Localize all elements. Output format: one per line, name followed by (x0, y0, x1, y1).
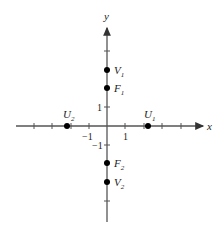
x-axis-label: x (206, 120, 212, 132)
label-u2: U2 (63, 108, 75, 123)
y-axis-label: y (103, 10, 109, 22)
label-v1: V1 (114, 64, 124, 79)
coordinate-plane: x y −1 1 1 −1 V1 F1 F2 V2 U1 U2 (0, 0, 224, 235)
tick-label-y-neg1: −1 (92, 140, 103, 151)
point-u2 (64, 123, 70, 129)
point-f1 (104, 85, 110, 91)
label-f1: F1 (113, 82, 124, 97)
tick-label-x-pos1: 1 (123, 131, 128, 142)
point-f2 (104, 160, 110, 166)
point-u1 (145, 123, 151, 129)
tick-label-y-pos1: 1 (97, 102, 102, 113)
label-f2: F2 (113, 157, 125, 172)
point-v2 (104, 179, 110, 185)
label-v2: V2 (114, 176, 125, 191)
label-u1: U1 (144, 108, 155, 123)
point-v1 (104, 67, 110, 73)
